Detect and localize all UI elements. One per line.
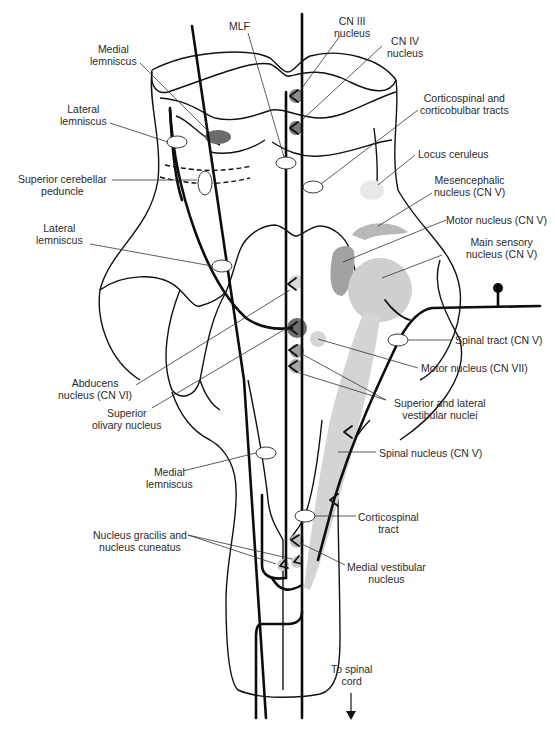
main-sensory-nucleus bbox=[348, 258, 412, 322]
label-medial-lemniscus-bottom: Mediallemniscus bbox=[146, 466, 193, 490]
label-spinal-nucleus-cn5: Spinal nucleus (CN V) bbox=[379, 447, 482, 459]
label-locus-ceruleus: Locus ceruleus bbox=[418, 148, 489, 160]
label-corticospinal-corticobulbar: Corticospinal andcorticobulbar tracts bbox=[420, 92, 509, 116]
mesencephalic-nucleus bbox=[352, 223, 408, 240]
label-superior-olivary-nucleus: Superiorolivary nucleus bbox=[92, 407, 161, 431]
label-gracilis-cuneatus: Nucleus gracilis andnucleus cuneatus bbox=[93, 529, 187, 553]
label-motor-nucleus-cn7: Motor nucleus (CN VII) bbox=[421, 362, 528, 374]
label-medial-vestibular-nucleus: Medial vestibularnucleus bbox=[347, 561, 426, 585]
label-motor-nucleus-cn5: Motor nucleus (CN V) bbox=[446, 214, 547, 226]
label-lateral-lemniscus-mid: Laterallemniscus bbox=[36, 222, 83, 246]
label-superior-cerebellar-peduncle: Superior cerebellarpeduncle bbox=[18, 173, 107, 197]
label-lateral-lemniscus-top: Laterallemniscus bbox=[60, 103, 107, 127]
label-abducens-nucleus: Abducensnucleus (CN VI) bbox=[58, 377, 132, 401]
label-main-sensory-nucleus: Main sensorynucleus (CN V) bbox=[466, 236, 537, 260]
down-arrow-icon bbox=[346, 693, 356, 720]
label-to-spinal-cord: To spinalcord bbox=[331, 663, 372, 687]
label-superior-lateral-vestibular: Superior and lateralvestibular nuclei bbox=[394, 397, 486, 421]
brainstem-outline bbox=[99, 52, 461, 697]
label-cn4-nucleus: CN IVnucleus bbox=[387, 35, 423, 59]
cn5-ganglion-cell bbox=[493, 283, 503, 293]
label-mesencephalic-nucleus: Mesencephalicnucleus (CN V) bbox=[434, 174, 505, 198]
label-medial-lemniscus-top: Mediallemniscus bbox=[90, 43, 137, 67]
label-mlf: MLF bbox=[229, 20, 250, 32]
label-corticospinal-tract: Corticospinaltract bbox=[358, 511, 419, 535]
label-spinal-tract-cn5: Spinal tract (CN V) bbox=[455, 334, 543, 346]
label-cn3-nucleus: CN IIInucleus bbox=[334, 15, 370, 39]
